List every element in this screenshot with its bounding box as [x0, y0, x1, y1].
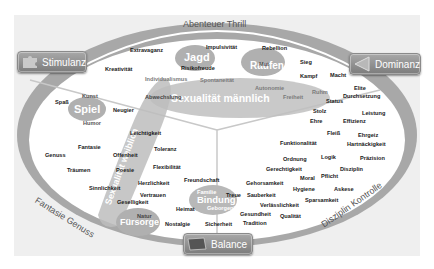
word: Stolz	[313, 109, 326, 115]
puzzle-icon	[20, 53, 39, 71]
word: Offenheit	[113, 153, 138, 159]
cluster-jagd: Jagd	[184, 52, 210, 63]
word: Individualismus	[145, 77, 187, 83]
word: Träumen	[67, 168, 90, 174]
word: Verlässlichkeit	[260, 203, 299, 209]
word: Status	[326, 99, 343, 105]
word: Freundschaft	[184, 178, 219, 184]
word: Qualität	[280, 214, 301, 220]
balance-label: Balance	[211, 239, 247, 250]
cluster-sexualitaet-maennlich: Sexualität männlich	[171, 93, 270, 104]
word: Autonomie	[255, 86, 284, 92]
word: Logik	[321, 155, 336, 161]
word: Neugier	[113, 108, 134, 114]
word: Spaß	[55, 100, 69, 106]
word: Gerechtigkeit	[266, 167, 302, 173]
word: Moral	[300, 176, 315, 182]
word: Geselligkeit	[117, 200, 148, 206]
cluster-spiel: Spiel	[74, 104, 100, 115]
card-icon	[186, 235, 208, 253]
word: Sinnlichkeit	[89, 186, 120, 192]
word: Fantasie	[78, 145, 101, 151]
word: Leichtigkeit	[130, 131, 161, 137]
word: Flexibilität	[153, 165, 181, 171]
word: Fleiß	[327, 131, 340, 137]
word: Pflicht	[321, 174, 338, 180]
balance-button[interactable]: Balance	[183, 233, 253, 255]
word: Kampf	[300, 74, 317, 80]
word: Treue	[226, 193, 241, 199]
word: Hygiene	[293, 187, 315, 193]
word: Genuss	[45, 153, 66, 159]
word: Gesundheit	[240, 212, 271, 218]
word: Ruhm	[312, 90, 328, 96]
word: Leistung	[362, 111, 385, 117]
word: Vertrauen	[140, 193, 166, 199]
word: Poesie	[116, 168, 134, 174]
word: Ehre	[310, 119, 322, 125]
word: Rebellion	[262, 46, 287, 52]
word: Risikofreude	[181, 66, 215, 72]
word: Toleranz	[154, 147, 177, 153]
word: Ordnung	[283, 157, 307, 163]
word: Präzision	[360, 156, 385, 162]
word: Humor	[83, 121, 101, 127]
word: Herzlichkeit	[138, 181, 169, 187]
word: Sicherheit	[205, 222, 232, 228]
word: Sparsamkeit	[305, 198, 338, 204]
word: Macht	[330, 73, 346, 79]
stimulanz-button[interactable]: Stimulanz	[17, 51, 87, 73]
word: Kreativität	[105, 67, 132, 73]
word: Abwechslung	[145, 95, 181, 101]
word: Familie	[197, 190, 216, 196]
word: Spontaneität	[200, 78, 234, 84]
word: Funktionalität	[280, 141, 317, 147]
word: Ehrgeiz	[358, 133, 378, 139]
word: Effizienz	[343, 119, 366, 125]
word: Mut	[259, 62, 269, 68]
word: Askese	[334, 187, 354, 193]
word: Hartnäckigkeit	[347, 142, 386, 148]
word: Impulsivität	[206, 45, 237, 51]
word: Geborgenheit	[207, 206, 243, 212]
word: Elite	[354, 86, 366, 92]
word: Freiheit	[283, 95, 303, 101]
triangle-left-icon	[352, 55, 372, 73]
word: Nostalgie	[165, 222, 190, 228]
word: Sieg	[300, 60, 312, 66]
dominanz-button[interactable]: Dominanz	[349, 53, 421, 75]
word: Disziplin	[340, 167, 363, 173]
word: Gehorsamkeit	[246, 181, 283, 187]
word: Tradition	[243, 221, 267, 227]
ring-label-top: Abenteuer Thrill	[183, 20, 246, 29]
word: Extravaganz	[130, 48, 163, 54]
stimulanz-label: Stimulanz	[42, 57, 86, 68]
word: Natur	[137, 214, 152, 220]
word: Sauberkeit	[247, 193, 276, 199]
dominanz-label: Dominanz	[375, 59, 420, 70]
word: Heimat	[176, 207, 195, 213]
word: Kunst	[82, 94, 98, 100]
word: Durchsetzung	[343, 94, 380, 100]
